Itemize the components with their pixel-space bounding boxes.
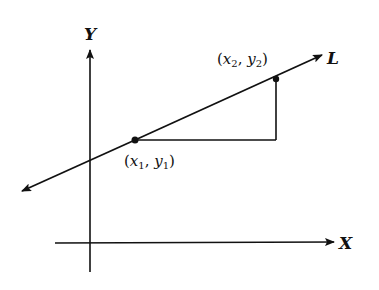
x-axis-label: X [338,233,353,253]
point-2-label: (x2, y2) [217,50,268,69]
y-axis-label: Y [84,24,98,44]
line-l-lower [22,140,135,191]
x-axis [55,242,334,243]
point-2-dot [273,76,279,82]
line-l-label: L [326,48,339,68]
point-1-dot [132,137,139,144]
slope-diagram: Y X L (x1, y1) (x2, y2) [0,0,379,290]
point-1-label: (x1, y1) [124,152,175,171]
